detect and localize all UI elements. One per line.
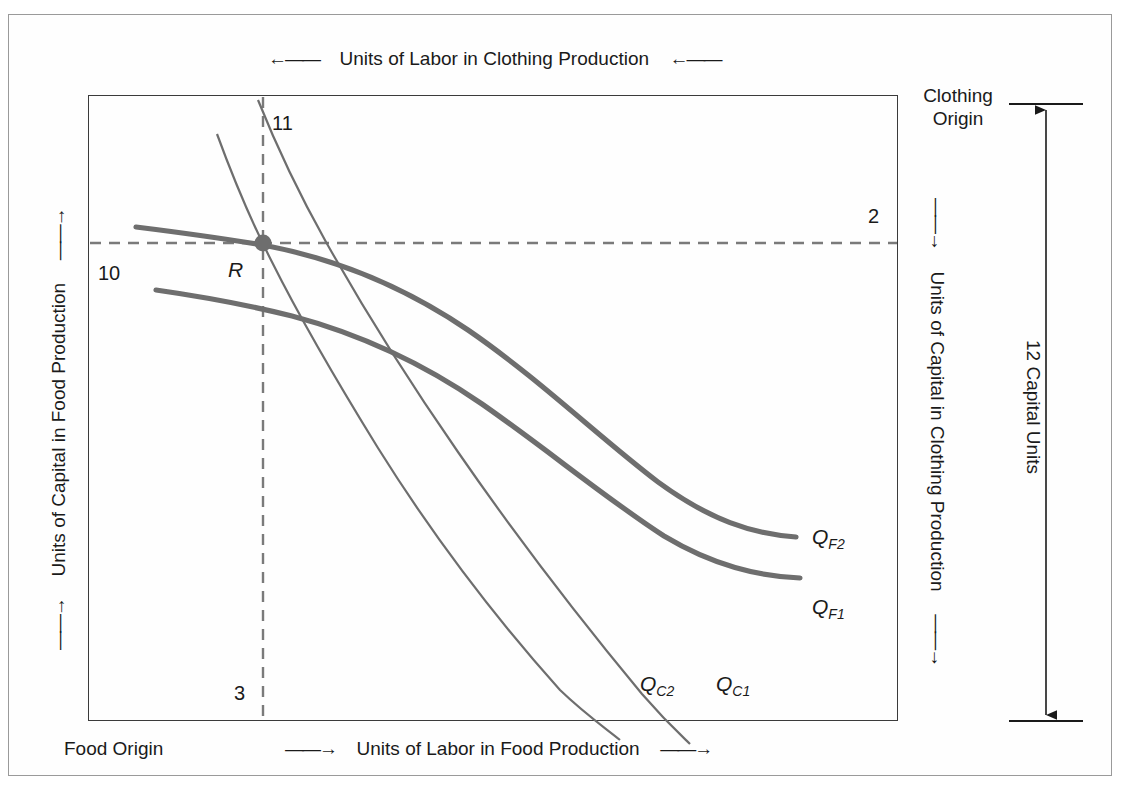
curve-qf1	[156, 290, 800, 578]
point-r-marker	[255, 235, 272, 252]
curve-qc1	[258, 100, 690, 744]
figure-plate: ←—— Units of Labor in Clothing Productio…	[0, 0, 1126, 794]
diagram-overlay	[0, 0, 1126, 794]
curve-qf2	[136, 227, 796, 537]
curve-qc2	[217, 134, 620, 740]
